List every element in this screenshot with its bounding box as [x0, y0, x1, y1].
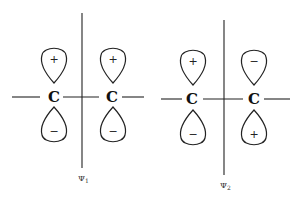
phase-sign: − [188, 128, 197, 141]
orbital-diagram: + + − − C C Ψ1 + − − + C C Ψ2 [0, 0, 299, 202]
phase-sign: − [108, 125, 117, 138]
phase-sign: + [249, 128, 258, 141]
phase-sign: + [188, 55, 197, 68]
diagram-psi2: + − − + C C Ψ2 [161, 20, 290, 191]
wavefunction-label-psi2: Ψ2 [220, 181, 231, 191]
phase-sign: − [249, 55, 258, 68]
carbon-atom-label: C [48, 88, 60, 106]
carbon-atom-label: C [186, 90, 198, 108]
phase-sign: + [108, 53, 117, 66]
phase-sign: + [49, 53, 58, 66]
carbon-atom-label: C [248, 90, 260, 108]
carbon-atom-label: C [106, 88, 118, 106]
wavefunction-label-psi1: Ψ1 [78, 174, 89, 184]
phase-sign: − [49, 125, 58, 138]
diagram-psi1: + + − − C C Ψ1 [12, 13, 144, 184]
